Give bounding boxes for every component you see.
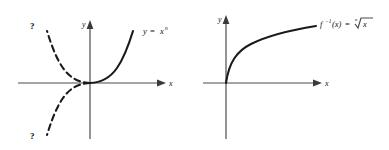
left-dashed-curve-upper xyxy=(47,31,90,83)
right-equation-inverse-exponent: −1 xyxy=(325,18,332,24)
right-radical-index: n xyxy=(355,17,358,22)
left-x-axis-arrowhead xyxy=(157,80,166,87)
left-solid-curve xyxy=(90,31,133,83)
left-question-mark-lower: ? xyxy=(30,131,35,141)
right-root-curve xyxy=(226,26,316,83)
right-equation-operator: = xyxy=(345,19,350,29)
left-dashed-curve-lower xyxy=(47,83,90,135)
right-equation-function-name: f xyxy=(320,19,324,29)
left-equation-variable: y xyxy=(142,26,147,36)
right-graph-panel: y x f −1 (x) = n x xyxy=(195,0,389,150)
right-radicand: x xyxy=(362,19,367,29)
left-y-axis-label: y xyxy=(81,20,86,29)
right-x-axis-label: x xyxy=(324,79,329,88)
left-x-axis-label: x xyxy=(168,79,173,88)
left-equation-base: x xyxy=(159,26,164,36)
left-question-mark-upper: ? xyxy=(30,21,35,31)
two-panel-function-inverse-figure: y x y = x n ? ? y x xyxy=(0,0,389,150)
right-y-axis-arrowhead xyxy=(223,15,230,24)
right-equation-label: f −1 (x) = n x xyxy=(320,17,373,29)
left-equation-exponent: n xyxy=(165,25,168,31)
right-equation-argument: (x) xyxy=(332,19,342,29)
left-y-axis-arrowhead xyxy=(87,20,94,29)
left-graph-panel: y x y = x n ? ? xyxy=(0,0,195,150)
left-equation-label: y = x n xyxy=(142,25,168,36)
left-equation-operator: = xyxy=(150,26,155,36)
right-x-axis-arrowhead xyxy=(313,80,322,87)
right-y-axis-label: y xyxy=(217,15,222,24)
